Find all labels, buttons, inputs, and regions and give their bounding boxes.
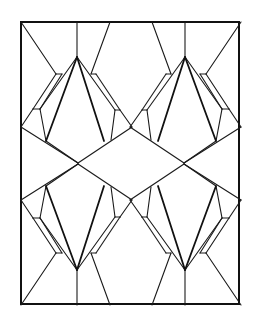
quarter-motif-top-right: [130, 22, 241, 163]
frame: [21, 22, 239, 304]
geometric-pattern: [0, 0, 257, 325]
quarter-motif-bottom-left: [21, 164, 132, 305]
quarter-motif-bottom-right: [130, 164, 241, 305]
quarter-motif-top-left: [21, 22, 132, 163]
